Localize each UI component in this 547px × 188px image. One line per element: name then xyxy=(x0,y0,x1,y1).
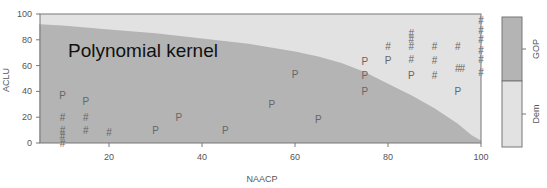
marker-p: P xyxy=(152,125,159,136)
marker-hash: # xyxy=(460,63,466,74)
y-tick-label: 40 xyxy=(22,86,32,96)
marker-p: P xyxy=(59,90,66,101)
plot-area: PPPPPPPPPPPPPP######################## xyxy=(39,14,484,149)
marker-hash: # xyxy=(106,127,112,138)
marker-hash: # xyxy=(455,41,461,52)
marker-p: P xyxy=(315,114,322,125)
marker-hash: # xyxy=(432,70,438,81)
marker-hash: # xyxy=(60,112,66,123)
marker-hash: # xyxy=(432,41,438,52)
x-tick-label: 40 xyxy=(197,152,207,162)
x-tick-label: 80 xyxy=(383,152,393,162)
marker-p: P xyxy=(222,125,229,136)
marker-p: P xyxy=(408,70,415,81)
marker-hash: # xyxy=(432,55,438,66)
marker-p: P xyxy=(82,96,89,107)
marker-p: P xyxy=(175,112,182,123)
y-tick-label: 20 xyxy=(22,112,32,122)
y-tick-label: 100 xyxy=(17,9,32,19)
marker-p: P xyxy=(361,70,368,81)
y-tick-label: 0 xyxy=(27,138,32,148)
legend-swatch-gop xyxy=(502,17,522,81)
x-tick-label: 100 xyxy=(473,152,488,162)
legend: GOP Dem xyxy=(502,17,541,147)
marker-hash: # xyxy=(409,41,415,52)
svm-decision-plot: PPPPPPPPPPPPPP######################## 2… xyxy=(0,0,547,188)
marker-hash: # xyxy=(409,54,415,65)
x-axis-title: NAACP xyxy=(246,174,277,184)
legend-label-dem: Dem xyxy=(531,104,541,123)
marker-hash: # xyxy=(83,112,89,123)
legend-label-gop: GOP xyxy=(531,39,541,59)
marker-p: P xyxy=(268,99,275,110)
x-axis: 20406080100 xyxy=(104,143,489,162)
y-axis-title: ACLU xyxy=(1,68,11,92)
marker-p: P xyxy=(385,55,392,66)
legend-swatch-dem xyxy=(502,81,522,147)
marker-p: P xyxy=(454,86,461,97)
x-tick-label: 20 xyxy=(104,152,114,162)
kernel-annotation: Polynomial kernel xyxy=(68,40,218,61)
marker-p: P xyxy=(292,69,299,80)
y-axis: 020406080100 xyxy=(17,9,40,148)
marker-hash: # xyxy=(385,41,391,52)
marker-hash: # xyxy=(83,125,89,136)
y-tick-label: 80 xyxy=(22,35,32,45)
y-tick-label: 60 xyxy=(22,61,32,71)
marker-p: P xyxy=(361,86,368,97)
x-tick-label: 60 xyxy=(290,152,300,162)
marker-p: P xyxy=(361,56,368,67)
